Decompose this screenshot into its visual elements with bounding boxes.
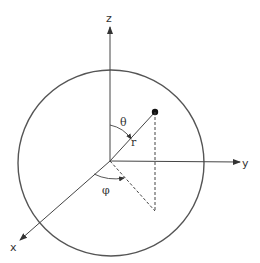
- phi-label: φ: [102, 184, 110, 197]
- x-axis: [20, 161, 110, 240]
- phi-arc: [94, 174, 124, 179]
- z-axis-label: z: [106, 12, 112, 25]
- sphere-outline: [18, 70, 204, 256]
- spherical-coordinate-diagram: z y x r θ φ: [0, 0, 260, 263]
- theta-label: θ: [120, 116, 127, 129]
- y-axis: [110, 161, 240, 162]
- x-axis-label: x: [10, 241, 17, 254]
- y-axis-label: y: [242, 157, 249, 170]
- radius-label: r: [131, 136, 137, 149]
- xy-projection-dashed: [110, 161, 155, 211]
